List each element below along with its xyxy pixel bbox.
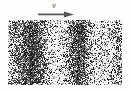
figure-root: v xyxy=(0,0,131,91)
velocity-symbol-label: v xyxy=(47,0,61,11)
flow-direction-arrow-icon xyxy=(38,11,74,18)
velocity-annotation: v xyxy=(38,0,76,18)
speckle-field-canvas xyxy=(8,20,122,85)
speckle-image-panel xyxy=(8,20,122,85)
